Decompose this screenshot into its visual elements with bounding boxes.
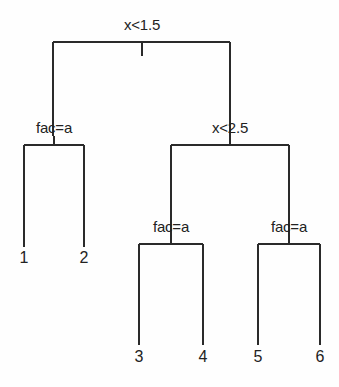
leaf-label-2: 2: [80, 249, 89, 267]
leaf-label-4: 4: [199, 348, 208, 366]
tree-diagram-canvas: x<1.5 fac=a x<2.5 fac=a fac=a 1 2 3 4 5 …: [0, 0, 339, 387]
leaf-label-5: 5: [254, 348, 263, 366]
leaf-label-1: 1: [20, 249, 29, 267]
leaf-label-3: 3: [135, 348, 144, 366]
node-label-mid-right: fac=a: [271, 218, 307, 235]
leaf-label-6: 6: [316, 348, 325, 366]
node-label-right-inner: x<2.5: [212, 119, 248, 136]
edge-group: [24, 42, 320, 345]
node-label-root: x<1.5: [124, 16, 160, 33]
tree-edges-layer: [0, 0, 339, 387]
node-label-mid-left: fac=a: [153, 218, 189, 235]
node-label-left-inner: fac=a: [36, 119, 72, 136]
